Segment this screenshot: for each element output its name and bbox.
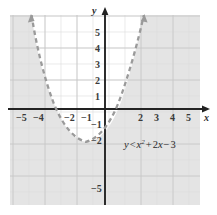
y-tick-label-5: 5 xyxy=(95,28,100,38)
x-tick-label--2: −2 xyxy=(64,113,75,123)
x-tick-label--4: −4 xyxy=(33,113,44,123)
x-tick-label--5: −5 xyxy=(16,113,27,123)
equation-constant: 3 xyxy=(171,139,176,150)
inequality-graph-figure: y x −5 −4 −2 −1 2 3 4 5 5 4 3 2 1 −1 −2 … xyxy=(0,0,217,215)
x-tick-label-5: 5 xyxy=(186,113,191,123)
y-axis-arrow xyxy=(102,7,109,15)
y-tick-label-2: 2 xyxy=(95,76,100,86)
y-tick-label--5: −5 xyxy=(91,184,102,194)
inequality-annotation: y<x2+2x−3 xyxy=(124,140,176,151)
equation-lhs: y xyxy=(124,139,129,150)
y-tick-label--2: −2 xyxy=(91,136,102,146)
x-tick-label-2: 2 xyxy=(138,113,143,123)
equation-minus: − xyxy=(163,139,171,150)
y-tick-label-1: 1 xyxy=(95,92,100,102)
equation-term2-variable: x xyxy=(158,139,163,150)
x-axis-label: x xyxy=(204,113,209,123)
x-tick-label-4: 4 xyxy=(170,113,175,123)
y-tick-label-4: 4 xyxy=(95,44,100,54)
y-tick-label--1: −1 xyxy=(91,120,102,130)
equation-relation: < xyxy=(129,139,137,150)
y-tick-label-3: 3 xyxy=(95,60,100,70)
equation-plus: + xyxy=(145,139,153,150)
x-tick-label-3: 3 xyxy=(154,113,159,123)
coordinate-plane xyxy=(0,0,217,215)
y-axis-label: y xyxy=(92,6,96,16)
